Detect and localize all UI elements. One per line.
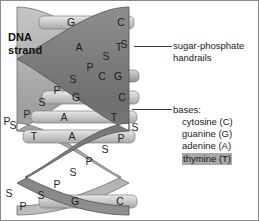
svg-text:C: C [117,16,125,28]
svg-text:P: P [53,178,60,190]
callout-bases: bases: cytosine (C)guanine (G)adenine (A… [173,104,233,165]
svg-text:C: C [118,91,126,103]
bases-legend-item: cytosine (C) [182,116,233,128]
svg-text:A: A [60,111,67,123]
svg-text:P: P [3,115,10,127]
dna-strand-label-line2: strand [8,44,42,57]
svg-text:P: P [53,84,60,96]
svg-text:A: A [75,41,82,53]
svg-text:S: S [102,50,109,62]
svg-text:P: P [86,61,93,73]
bases-legend-item: adenine (A) [182,140,233,152]
svg-text:S: S [131,121,138,133]
svg-text:S: S [120,38,127,50]
svg-text:C: C [116,195,124,207]
svg-text:S: S [5,187,12,199]
svg-text:P: P [19,200,26,212]
svg-text:S: S [69,73,76,85]
dna-strand-label-line1: DNA [8,31,42,44]
svg-text:A: A [68,130,75,142]
svg-text:P: P [23,108,30,120]
dna-diagram-figure: G C A T C G G C A T T A G C S S P S [0,0,259,221]
bases-label-title: bases: [173,104,233,116]
bases-legend-item: guanine (G) [182,128,233,140]
svg-text:T: T [111,111,118,123]
callout-sugar-phosphate-handrails: sugar-phosphate handrails [173,40,244,64]
svg-text:G: G [67,16,75,28]
bases-legend-list: cytosine (C)guanine (G)adenine (A)thymin… [173,116,233,165]
handrails-label-line2: handrails [173,52,244,64]
dna-strand-label: DNA strand [8,31,42,56]
leader-line-handrails [134,46,172,47]
svg-text:P: P [117,132,124,144]
svg-text:P: P [85,155,92,167]
svg-text:G: G [72,91,80,103]
svg-text:T: T [31,130,38,142]
leader-line-bases [132,109,172,110]
svg-text:C: C [98,70,106,82]
bases-legend-item: thymine (T) [182,153,232,165]
svg-text:S: S [101,143,108,155]
svg-text:G: G [114,70,122,82]
handrails-label-line1: sugar-phosphate [173,40,244,52]
svg-text:S: S [38,96,45,108]
svg-text:G: G [71,195,79,207]
svg-text:S: S [9,119,16,131]
svg-text:S: S [37,189,44,201]
svg-text:S: S [69,166,76,178]
